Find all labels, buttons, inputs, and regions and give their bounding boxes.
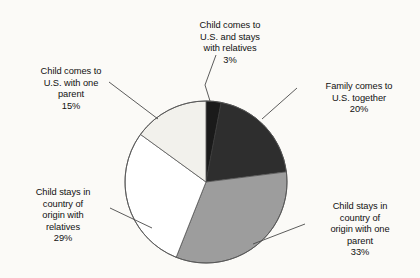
pie-label-percent: 15% [8, 101, 134, 112]
pie-label-text: Child comes to U.S. and stays with relat… [200, 20, 261, 53]
pie-label-percent: 3% [170, 55, 290, 66]
pie-label-percent: 29% [2, 233, 124, 244]
pie-label-child-comes-to-us-with-one-parent: Child comes to U.S. with one parent 15% [8, 55, 134, 123]
leader-line-right [262, 88, 297, 119]
pie-label-child-comes-to-us-stays-with-relatives: Child comes to U.S. and stays with relat… [170, 9, 290, 77]
pie-label-percent: 20% [300, 104, 418, 115]
pie-label-child-stays-in-country-with-relatives: Child stays in country of origin with re… [2, 176, 124, 256]
pie-label-child-stays-in-country-with-one-parent: Child stays in country of origin with on… [302, 190, 418, 270]
pie-label-family-comes-to-us-together: Family comes to U.S. together 20% [300, 70, 418, 127]
pie-label-text: Family comes to U.S. together [326, 81, 393, 102]
pie-label-text: Child stays in country of origin with re… [36, 187, 91, 231]
pie-label-percent: 33% [302, 247, 418, 258]
pie-label-text: Child comes to U.S. with one parent [41, 66, 102, 99]
pie-label-text: Child stays in country of origin with on… [330, 201, 389, 245]
pie-chart-figure: Child comes to U.S. and stays with relat… [0, 0, 420, 278]
